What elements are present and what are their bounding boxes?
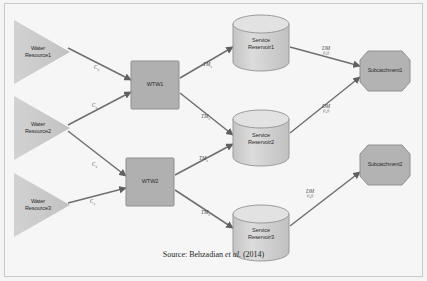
- edge-label-dm-3: DM (i,j): [306, 188, 314, 198]
- edge-resource3-wtw2: [68, 188, 126, 203]
- edge-label-tm-1: TMs: [203, 61, 212, 69]
- water-resource-1-line2: Resource1: [25, 52, 51, 58]
- water-resource-2-line1: Water: [31, 121, 45, 127]
- subcatchment-1-label: Subcatchment1: [357, 67, 413, 74]
- caption-suffix: (2014): [243, 250, 264, 259]
- edge-group-transfer: [175, 47, 233, 228]
- edge-group-distribution: [290, 47, 360, 226]
- water-resource-3-line1: Water: [31, 198, 45, 204]
- edge-label-tm-4: TMs: [201, 209, 210, 217]
- water-resource-2-line2: Resource2: [25, 128, 51, 134]
- service-reservoir-3-line1: Service: [252, 227, 270, 233]
- service-reservoir-1-line2: Reservoir1: [248, 44, 274, 50]
- service-reservoir-2-label: Service Reservoir2: [233, 132, 289, 146]
- caption-italic: et al.: [225, 250, 241, 259]
- figure-caption: Source: Behzadian et al. (2014): [0, 250, 427, 259]
- service-reservoir-1-label: Service Reservoir1: [233, 37, 289, 51]
- edge-resource2-wtw1: [68, 92, 131, 125]
- water-resource-3-label: Water Resource3: [14, 198, 62, 212]
- edge-group-supply: [68, 48, 131, 203]
- edge-label-tm-2: TMs: [201, 113, 210, 121]
- water-resource-1-line1: Water: [31, 45, 45, 51]
- water-resource-1-label: Water Resource1: [14, 45, 62, 59]
- water-resource-2-label: Water Resource2: [14, 121, 62, 135]
- service-reservoir-1-line1: Service: [252, 37, 270, 43]
- edge-label-c-1: Cs: [94, 64, 99, 72]
- service-reservoir-3-label: Service Reservoir3: [233, 227, 289, 241]
- edge-label-c-2: Cs: [92, 102, 97, 110]
- edge-label-dm-1: DM (i,j): [322, 45, 330, 55]
- edge-label-tm-3: TMs: [199, 155, 208, 163]
- water-supply-network-diagram: [0, 0, 427, 281]
- water-resource-3-line2: Resource3: [25, 205, 51, 211]
- caption-prefix: Source: Behzadian: [163, 250, 223, 259]
- edge-label-c-3: Cs: [92, 161, 97, 169]
- edge-label-c-4: Cs: [90, 198, 95, 206]
- subcatchment-2-label: Subcatchment2: [357, 161, 413, 168]
- wtw-1-label: WTW1: [131, 81, 179, 88]
- service-reservoir-2-line1: Service: [252, 132, 270, 138]
- edge-reservoir3-subcatchment2: [290, 172, 360, 226]
- wtw-2-label: WTW2: [126, 178, 174, 185]
- edge-label-dm-2: DM (i,j): [322, 103, 330, 113]
- service-reservoir-2-line2: Reservoir2: [248, 139, 274, 145]
- service-reservoir-3-line2: Reservoir3: [248, 234, 274, 240]
- edge-resource1-wtw1: [68, 48, 131, 80]
- figure-page: Water Resource1 Water Resource2 Water Re…: [0, 0, 427, 281]
- edge-resource2-wtw2: [68, 131, 126, 176]
